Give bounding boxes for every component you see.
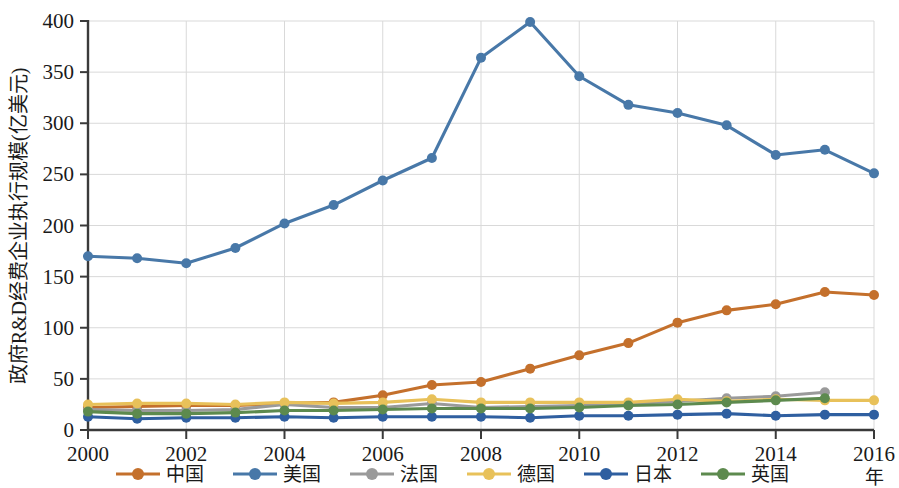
- series-point-5: [329, 406, 339, 416]
- series-point-5: [623, 400, 633, 410]
- y-tick-label: 50: [53, 367, 74, 391]
- series-point-1: [525, 17, 535, 27]
- series-point-1: [869, 168, 879, 178]
- legend-swatch-dot: [366, 468, 378, 480]
- x-tick-label: 2016: [853, 442, 895, 466]
- legend-swatch-dot: [717, 468, 729, 480]
- x-tick-label: 2004: [264, 442, 307, 466]
- x-tick-label: 2008: [460, 442, 502, 466]
- series-point-4: [869, 410, 879, 420]
- legend-label: 中国: [166, 464, 204, 485]
- series-point-5: [771, 395, 781, 405]
- y-axis-title-text: 政府R&D经费企业执行规模(亿美元): [8, 68, 31, 385]
- legend-swatch-dot: [249, 468, 261, 480]
- legend-item-日本[interactable]: 日本: [584, 464, 672, 485]
- series-point-1: [820, 145, 830, 155]
- y-axis-ticks: 050100150200250300350400: [43, 9, 89, 442]
- x-tick-label: 2006: [362, 442, 404, 466]
- series-point-1: [771, 150, 781, 160]
- legend-item-英国[interactable]: 英国: [701, 464, 789, 485]
- series-point-0: [869, 290, 879, 300]
- x-tick-label: 2002: [165, 442, 207, 466]
- x-axis-ticks: 200020022004200620082010201220142016: [67, 430, 895, 466]
- y-tick-label: 100: [43, 316, 75, 340]
- y-tick-label: 0: [64, 418, 75, 442]
- y-tick-label: 150: [43, 265, 75, 289]
- x-tick-label: 2010: [558, 442, 600, 466]
- legend-item-德国[interactable]: 德国: [467, 464, 555, 485]
- series-point-1: [673, 108, 683, 118]
- x-axis-unit-label: 年: [865, 467, 884, 488]
- series-point-5: [722, 397, 732, 407]
- series-point-1: [427, 153, 437, 163]
- series-point-0: [722, 305, 732, 315]
- gridlines: [88, 21, 874, 430]
- series-point-1: [132, 253, 142, 263]
- series-point-1: [378, 176, 388, 186]
- series-point-3: [869, 395, 879, 405]
- series-point-1: [329, 200, 339, 210]
- series-point-1: [280, 218, 290, 228]
- series-point-0: [427, 380, 437, 390]
- series-point-5: [673, 399, 683, 409]
- line-chart: 050100150200250300350400 200020022004200…: [0, 0, 899, 488]
- series-point-5: [230, 408, 240, 418]
- series-point-0: [574, 350, 584, 360]
- legend-item-美国[interactable]: 美国: [233, 464, 321, 485]
- series-point-4: [722, 409, 732, 419]
- series-point-5: [83, 407, 93, 417]
- legend-item-法国[interactable]: 法国: [350, 464, 438, 485]
- series-point-5: [378, 405, 388, 415]
- series-point-0: [525, 364, 535, 374]
- y-tick-label: 350: [43, 60, 75, 84]
- x-tick-label: 2012: [657, 442, 699, 466]
- series-point-1: [623, 100, 633, 110]
- y-tick-label: 200: [43, 214, 75, 238]
- series-point-4: [820, 410, 830, 420]
- legend-swatch-dot: [600, 468, 612, 480]
- series-point-1: [574, 71, 584, 81]
- series-point-4: [525, 413, 535, 423]
- series-point-5: [427, 404, 437, 414]
- series-point-0: [771, 299, 781, 309]
- series-point-1: [181, 258, 191, 268]
- legend: 中国美国法国德国日本英国: [116, 464, 789, 485]
- series-point-3: [427, 394, 437, 404]
- series-point-3: [132, 398, 142, 408]
- legend-label: 英国: [751, 464, 789, 485]
- x-tick-label: 2000: [67, 442, 109, 466]
- legend-item-中国[interactable]: 中国: [116, 464, 204, 485]
- x-axis-unit-text: 年: [865, 467, 884, 488]
- series-point-0: [820, 287, 830, 297]
- series-point-1: [476, 53, 486, 63]
- series-point-3: [181, 398, 191, 408]
- y-tick-label: 400: [43, 9, 75, 33]
- series-point-5: [181, 409, 191, 419]
- series-point-5: [820, 393, 830, 403]
- legend-label: 日本: [634, 464, 672, 485]
- series-point-5: [574, 403, 584, 413]
- series-point-5: [280, 406, 290, 416]
- series-point-4: [673, 410, 683, 420]
- y-tick-label: 300: [43, 111, 75, 135]
- series-point-5: [132, 409, 142, 419]
- y-axis-title: 政府R&D经费企业执行规模(亿美元): [8, 68, 31, 385]
- x-tick-label: 2014: [755, 442, 798, 466]
- legend-swatch-dot: [132, 468, 144, 480]
- series-point-4: [623, 411, 633, 421]
- series-point-4: [771, 411, 781, 421]
- series-point-5: [525, 404, 535, 414]
- legend-label: 法国: [400, 464, 438, 485]
- y-tick-label: 250: [43, 162, 75, 186]
- series-point-1: [722, 120, 732, 130]
- series-point-0: [673, 318, 683, 328]
- legend-label: 德国: [517, 464, 555, 485]
- chart-canvas: 050100150200250300350400 200020022004200…: [0, 0, 899, 488]
- series-point-1: [230, 243, 240, 253]
- legend-label: 美国: [283, 464, 321, 485]
- legend-swatch-dot: [483, 468, 495, 480]
- series-point-0: [476, 377, 486, 387]
- series-point-0: [623, 338, 633, 348]
- series-point-1: [83, 251, 93, 261]
- series-point-5: [476, 404, 486, 414]
